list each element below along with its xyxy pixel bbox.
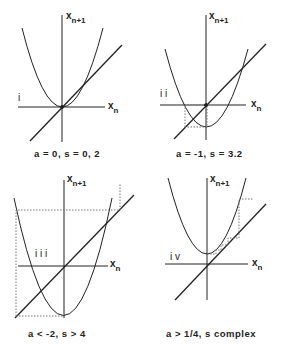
x-axis-symbol: x [251, 98, 257, 109]
x-axis-label: xn [251, 98, 261, 109]
y-axis-symbol: x [66, 10, 72, 21]
x-axis-label: xn [252, 257, 262, 268]
panel-label: i [18, 92, 20, 103]
x-axis-label: xn [110, 258, 120, 269]
panel-caption: a < -2, s > 4 [28, 328, 86, 339]
y-axis-subscript: n+1 [215, 16, 229, 25]
diagonal-line [15, 195, 134, 318]
x-axis-subscript: n [116, 264, 121, 273]
x-axis-symbol: x [252, 257, 258, 268]
panel-caption: a = 0, s = 0, 2 [34, 148, 100, 159]
panel-ii-graph [160, 15, 266, 140]
x-axis-subscript: n [258, 263, 263, 272]
diagram-canvas [0, 0, 282, 347]
panel-caption: a > 1/4, s complex [166, 328, 256, 339]
y-axis-label: xn+1 [66, 10, 86, 21]
y-axis-label: xn+1 [210, 173, 230, 184]
x-axis-label: xn [108, 100, 118, 111]
panel-iv-graph [165, 178, 266, 300]
y-axis-symbol: x [209, 10, 215, 21]
parabola [14, 198, 112, 316]
x-axis-subscript: n [257, 104, 262, 113]
y-axis-subscript: n+1 [72, 16, 86, 25]
y-axis-subscript: n+1 [216, 179, 230, 188]
fixed-point [61, 106, 64, 109]
panel-iii-graph [14, 180, 134, 318]
diagonal-line [174, 44, 266, 139]
diagonal-line [175, 204, 266, 300]
x-axis-symbol: x [110, 258, 116, 269]
x-axis-subscript: n [114, 106, 119, 115]
panel-label: i v [170, 251, 180, 262]
cobweb-path [16, 183, 120, 316]
y-axis-symbol: x [210, 173, 216, 184]
panel-label: i i [160, 88, 167, 99]
y-axis-subscript: n+1 [73, 179, 87, 188]
diagonal-line [30, 45, 122, 141]
y-axis-label: xn+1 [67, 173, 87, 184]
panel-label: i i i [35, 248, 47, 259]
x-axis-symbol: x [108, 100, 114, 111]
panel-i-graph [18, 15, 122, 142]
y-axis-label: xn+1 [209, 10, 229, 21]
y-axis-symbol: x [67, 173, 73, 184]
panel-caption: a = -1, s = 3.2 [176, 148, 243, 159]
